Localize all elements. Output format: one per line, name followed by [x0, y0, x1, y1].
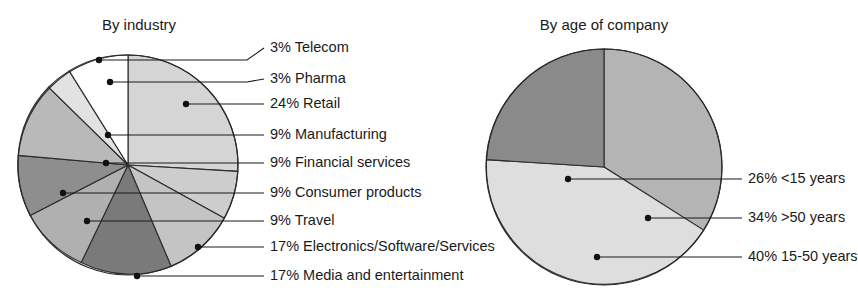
callout-label-over-50-years: 34% >50 years [748, 209, 845, 225]
callout-dot-manufacturing [105, 132, 111, 138]
callout-label-telecom: 3% Telecom [270, 39, 349, 55]
callout-dot-media-and-entertainment [134, 273, 140, 279]
callout-dot-electronics-software-services [195, 244, 201, 250]
callout-label-electronics-software-services: 17% Electronics/Software/Services [270, 238, 495, 254]
callout-label-pharma: 3% Pharma [270, 70, 347, 86]
callout-dot-consumer-products [60, 190, 66, 196]
callout-label-media-and-entertainment: 17% Media and entertainment [270, 267, 463, 283]
callout-label-manufacturing: 9% Manufacturing [270, 126, 387, 142]
callout-dot-travel [84, 218, 90, 224]
callout-label-retail: 24% Retail [270, 95, 340, 111]
chart-title-by-age-of-company: By age of company [540, 16, 669, 33]
callout-label-15-50-years: 40% 15-50 years [748, 248, 858, 264]
callout-dot-under-15-years [565, 176, 571, 182]
pie-slices-by-age [486, 49, 722, 285]
callout-dot-retail [183, 101, 189, 107]
callout-label-under-15-years: 26% <15 years [748, 170, 845, 186]
callout-dot-financial-services [103, 160, 109, 166]
callout-label-financial-services: 9% Financial services [270, 154, 410, 170]
callout-dot-15-50-years [594, 254, 600, 260]
dual-pie-chart-figure: By industry [0, 0, 858, 306]
callout-label-consumer-products: 9% Consumer products [270, 184, 422, 200]
callout-dot-over-50-years [645, 215, 651, 221]
callout-dot-pharma [107, 79, 113, 85]
callout-label-travel: 9% Travel [270, 212, 334, 228]
pie-slices-by-industry [18, 55, 238, 275]
callout-dot-telecom [96, 57, 102, 63]
chart-title-by-industry: By industry [102, 16, 177, 33]
